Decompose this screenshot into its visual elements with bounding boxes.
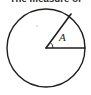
angle-arc-marking bbox=[50, 42, 53, 48]
scan-speck-artifact bbox=[36, 25, 38, 27]
geometry-figure-container: The measure of A bbox=[0, 0, 91, 95]
circle-angle-diagram: A bbox=[0, 0, 91, 95]
angle-label-A: A bbox=[58, 31, 66, 43]
